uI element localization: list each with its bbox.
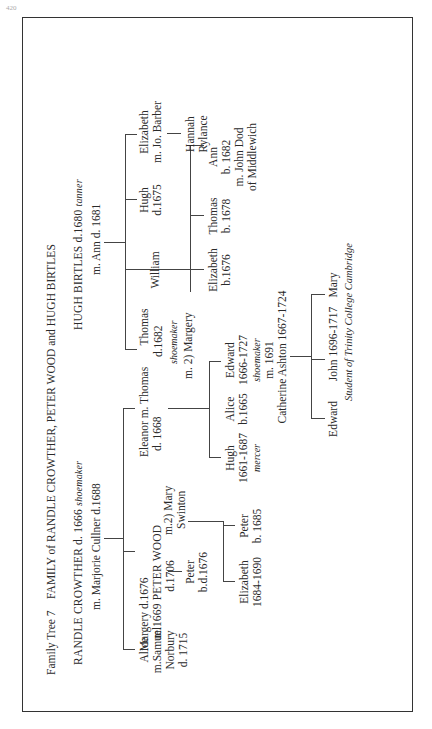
thomas-second-children-bar: [190, 145, 191, 270]
birtles-sibling-bar: [125, 135, 126, 350]
person-hugh-birtles-mercer: Hugh 1661-1687 mercer: [224, 433, 263, 483]
connector: [125, 349, 137, 350]
connector: [123, 649, 135, 650]
person-peter-wood-1685: Peter b. 1685: [238, 509, 264, 544]
person-eleanor-crowther: Eleanor m. Thomas d. 1668: [138, 367, 164, 457]
figure-caption: FAMILY of RANDLE CROWTHER, PETER WOOD an…: [45, 244, 57, 599]
connector: [223, 525, 235, 526]
randle-occupation: shoemaker: [73, 461, 84, 506]
connector: [174, 269, 175, 270]
randle-name: RANDLE CROWTHER d. 1666: [72, 509, 84, 665]
person-alice-birtles: Alice b.1665: [224, 393, 250, 425]
person-elizabeth-1676: Elizabeth b.1676: [207, 248, 233, 291]
connector: [104, 538, 124, 539]
connector: [188, 521, 224, 522]
connector: [209, 361, 221, 362]
hugh-birtles-occupation: tanner: [73, 179, 84, 206]
randle-crowther: RANDLE CROWTHER d. 1666 shoemaker: [72, 461, 85, 665]
person-william-birtles: William: [149, 251, 162, 288]
edward-children-bar: [311, 295, 312, 419]
person-peter-wood-jr: Peter b.d.1676: [184, 552, 210, 592]
wood-second-marriage: m.2) Mary Swinton: [162, 486, 188, 535]
connector: [223, 581, 235, 582]
connector: [125, 134, 137, 135]
connector: [190, 215, 204, 216]
figure-title: Family Tree 7 FAMILY of RANDLE CROWTHER,…: [45, 244, 58, 675]
connector: [168, 571, 182, 572]
thomas-birtles-death: d.1682: [152, 325, 165, 357]
connector: [125, 199, 137, 200]
page-number: 420: [6, 4, 17, 12]
person-thomas-1678: Thomas b. 1678: [207, 197, 233, 234]
john-note: Student of Trinity College Cambridge: [342, 243, 355, 401]
connector: [290, 356, 312, 357]
hugh-birtles-spouse: m. Ann d. 1681: [90, 204, 103, 275]
person-edward-jr: Edward: [327, 401, 340, 437]
person-edward-birtles: Edward 1666-1727 shoemaker m. 1691: [224, 335, 276, 385]
connector: [223, 522, 224, 582]
person-margery-crowther: Margery d.1676 m.1669 PETER WOOD d.1706: [138, 525, 177, 640]
connector: [167, 133, 181, 134]
family-tree-diagram: Family Tree 7 FAMILY of RANDLE CROWTHER,…: [22, 17, 413, 712]
hugh-birtles: HUGH BIRTLES d.1680 tanner: [72, 179, 85, 330]
connector: [209, 457, 221, 458]
connector: [168, 408, 210, 409]
person-elizabeth-birtles: Elizabeth m. Jo. Barber: [138, 101, 164, 163]
connector: [123, 408, 135, 409]
connector: [123, 551, 135, 552]
thomas-occupation: shoemaker: [167, 321, 180, 364]
randle-spouse: m. Marjorie Cullner d.1688: [90, 483, 103, 610]
person-ann-1682: Ann b. 1682 m. John Dod of Middlewich: [207, 123, 259, 191]
connector: [190, 270, 191, 292]
connector: [311, 359, 325, 360]
person-hugh-birtles-jr: Hugh d.1675: [138, 184, 164, 216]
person-mary: Mary: [327, 273, 340, 298]
connector: [190, 269, 204, 270]
crowther-sibling-bar: [123, 409, 124, 650]
connector: [311, 294, 325, 295]
thomas-second-marriage: m. 2) Margery: [182, 312, 195, 379]
person-thomas-birtles: Thomas: [138, 308, 151, 345]
person-elizabeth-wood: Elizabeth 1684-1690: [238, 557, 264, 607]
figure-label: Family Tree 7: [45, 610, 57, 675]
connector: [104, 242, 126, 243]
person-john: John 1696-1717: [327, 307, 340, 381]
person-hannah-rylance: Hannah Rylance: [184, 115, 210, 152]
hugh-birtles-name: HUGH BIRTLES d.1680: [72, 210, 84, 330]
edward-spouse: Catherine Ashton 1667-1724: [276, 291, 289, 424]
connector: [125, 269, 137, 270]
connector: [311, 418, 325, 419]
thomas-first-children-bar: [209, 362, 210, 458]
